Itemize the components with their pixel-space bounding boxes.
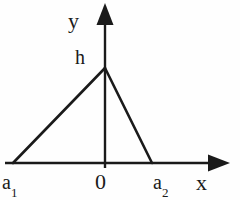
left-root-label-base: a [2, 171, 11, 193]
x-axis-label: x [196, 172, 207, 194]
right-root-label-a2: a2 [153, 172, 168, 196]
triangle-left-slope [13, 68, 105, 163]
origin-label: 0 [95, 171, 106, 193]
y-axis-arrow-icon [97, 3, 114, 25]
right-root-label-base: a [153, 171, 162, 193]
y-axis-label: y [68, 10, 79, 32]
triangle-right-slope [105, 68, 152, 163]
height-label-h: h [75, 47, 85, 67]
x-axis-arrow-icon [208, 155, 230, 172]
right-root-label-subscript: 2 [162, 185, 169, 200]
left-root-label-a1: a1 [2, 172, 17, 196]
triangle-graph-figure: y h x 0 a1 a2 [0, 0, 240, 200]
left-root-label-subscript: 1 [11, 185, 18, 200]
